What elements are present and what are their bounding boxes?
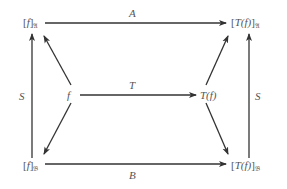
- node-mid-left: f: [67, 89, 72, 101]
- arrow-f-to-top-left: [44, 36, 71, 85]
- arrow-tf-to-top-right: [206, 36, 228, 85]
- label-t: T: [129, 79, 136, 91]
- label-s-left: S: [19, 90, 25, 102]
- node-top-left: [f]𝔄: [23, 16, 38, 30]
- label-s-right: S: [255, 90, 261, 102]
- label-a: A: [128, 7, 136, 19]
- commutative-diagram: [f]𝔄 [T(f)]𝔄 f T(f) [f]𝔅 [T(f)]𝔅 A T B S…: [0, 0, 287, 189]
- label-b: B: [129, 169, 136, 181]
- node-bottom-right: [T(f)]𝔅: [231, 159, 260, 173]
- node-top-right: [T(f)]𝔄: [231, 16, 260, 30]
- arrow-tf-to-bottom-right: [206, 103, 228, 154]
- arrow-f-to-bottom-left: [44, 103, 71, 154]
- node-mid-right: T(f): [200, 89, 217, 102]
- node-bottom-left: [f]𝔅: [23, 159, 38, 173]
